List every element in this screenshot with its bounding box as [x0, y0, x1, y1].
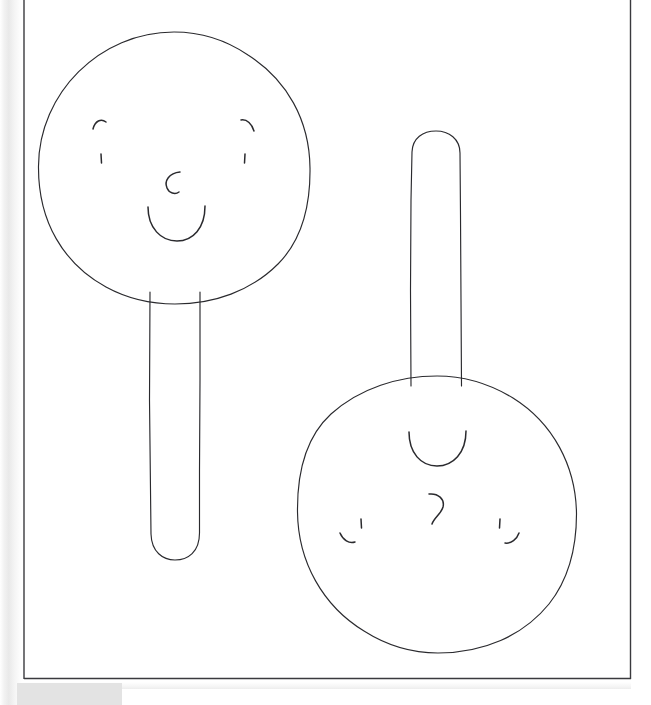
handle-upright: [150, 292, 201, 560]
face-inverted: [340, 431, 519, 543]
eye-left-upright: [101, 154, 102, 163]
eyebrow-right-upright: [241, 120, 254, 131]
head-circle-inverted: [297, 376, 576, 653]
eyebrow-left-upright: [93, 120, 106, 129]
figure-lollipop-rattle-inverted: [297, 131, 576, 653]
handle-outline-upright: [150, 292, 201, 560]
figure-lollipop-rattle-upright: [38, 32, 310, 560]
eye-right-inverted: [500, 519, 501, 528]
handle-inverted: [411, 131, 462, 386]
page-border: [24, 0, 631, 679]
head-inverted: [297, 376, 576, 653]
mouth-smile-upright: [148, 206, 205, 241]
eyebrow-right-inverted: [505, 533, 519, 543]
nose-inverted: [429, 494, 443, 524]
eye-left-inverted: [361, 519, 362, 528]
eye-right-upright: [245, 154, 246, 163]
head-upright: [38, 32, 310, 304]
sketch-canvas: Hand-drawn sketch of two lollipop rattle…: [0, 0, 651, 705]
nose-upright: [166, 172, 180, 193]
eyebrow-left-inverted: [340, 533, 355, 543]
drawing-artwork: [0, 0, 651, 705]
handle-outline-inverted: [411, 131, 462, 386]
face-upright: [93, 120, 254, 241]
head-circle-upright: [38, 32, 310, 304]
mouth-curve-inverted: [409, 431, 466, 466]
